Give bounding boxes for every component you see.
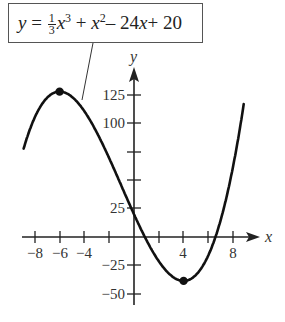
equation-box: y = 13x3 + x2– 24x+ 20 [8, 3, 203, 43]
y-tick-label-neg50: −50 [102, 286, 125, 302]
eq-lhs: y [18, 12, 26, 33]
eq-fraction: 13 [48, 13, 56, 36]
y-tick-label-25: 25 [110, 200, 125, 216]
x-axis-label: x [264, 228, 272, 245]
y-tick-label-100: 100 [103, 115, 126, 131]
eq-plus2: + [147, 12, 158, 33]
x-tick-label-neg6: −6 [52, 245, 68, 261]
x-tick-label-neg4: −4 [76, 245, 92, 261]
eq-plus1: + [76, 12, 87, 33]
eq-minus: – [106, 12, 116, 33]
eq-exp3: 3 [65, 11, 71, 25]
y-axis [127, 67, 141, 305]
eq-coef24: 24 [120, 12, 139, 33]
local-max-point [55, 87, 63, 95]
y-tick-label-125: 125 [103, 87, 126, 103]
eq-x1: x [57, 12, 65, 33]
x-tick-label-4: 4 [179, 245, 187, 261]
y-tick-label-neg25: −25 [102, 257, 125, 273]
x-tick-label-8: 8 [229, 245, 237, 261]
x-axis [22, 231, 260, 243]
function-graph: x y −8 −6 −4 4 8 125 100 25 −25 −50 [0, 0, 285, 322]
eq-frac-den: 3 [48, 25, 56, 36]
eq-constant: 20 [163, 12, 182, 33]
eq-x2: x [91, 12, 99, 33]
y-axis-label: y [128, 48, 138, 66]
equation-text: y = 13x3 + x2– 24x+ 20 [18, 11, 182, 36]
eq-equals: = [31, 12, 42, 33]
leader-line [82, 43, 93, 100]
local-min-point [179, 277, 187, 285]
x-tick-label-neg8: −8 [27, 245, 43, 261]
